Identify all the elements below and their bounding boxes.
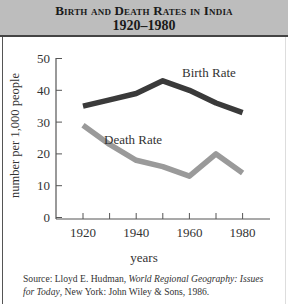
death-rate-label: Death Rate	[104, 132, 162, 147]
x-axis-label: years	[0, 250, 288, 266]
birth-rate-line	[83, 81, 243, 113]
x-ticks: 1920194019601980	[70, 213, 256, 240]
birth-rate-label: Birth Rate	[182, 65, 236, 80]
svg-text:0: 0	[44, 210, 51, 225]
source-prefix: Source: Lloyd E. Hudman,	[23, 273, 129, 284]
y-ticks: 01020304050	[37, 51, 62, 225]
svg-text:20: 20	[37, 146, 50, 161]
source-citation: Source: Lloyd E. Hudman, World Regional …	[23, 272, 283, 298]
svg-text:50: 50	[37, 51, 50, 66]
svg-text:30: 30	[37, 115, 50, 130]
svg-text:1940: 1940	[123, 225, 149, 240]
source-suffix: , New York: John Wiley & Sons, 1986.	[60, 286, 209, 297]
y-axis-label: number per 1,000 people	[8, 66, 23, 206]
svg-text:40: 40	[37, 83, 50, 98]
svg-text:10: 10	[37, 178, 50, 193]
svg-text:1980: 1980	[230, 225, 256, 240]
svg-text:1960: 1960	[176, 225, 202, 240]
svg-text:1920: 1920	[70, 225, 96, 240]
source-title-2: for Today	[23, 286, 60, 297]
source-title-1: World Regional Geography: Issues	[129, 273, 264, 284]
